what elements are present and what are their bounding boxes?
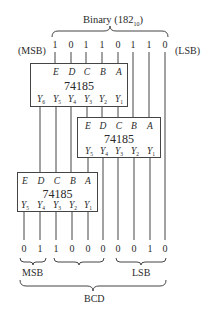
bcd-brace bbox=[20, 280, 166, 291]
chip1-input-d: D bbox=[65, 67, 79, 77]
chip1-output-y5: Y5 bbox=[50, 94, 64, 105]
bcd-bit-2: 0 bbox=[129, 244, 139, 254]
lsb-brace bbox=[116, 258, 166, 265]
top-bit-6: 0 bbox=[66, 40, 76, 50]
top-bit-5: 1 bbox=[81, 40, 91, 50]
chip3-input-d: D bbox=[34, 176, 48, 186]
top-bit-1: 1 bbox=[144, 40, 154, 50]
chip2-output-y2: Y2 bbox=[128, 146, 142, 157]
bcd-bit-8: 1 bbox=[35, 244, 45, 254]
msb-brace bbox=[20, 258, 46, 265]
chip2-input-d: D bbox=[96, 121, 110, 131]
chip-74185-1: E D C B A 74185 Y6 Y5 Y4 Y3 Y2 Y1 bbox=[30, 63, 128, 107]
top-bit-2: 1 bbox=[128, 40, 138, 50]
chip1-input-c: C bbox=[80, 67, 94, 77]
chip2-input-c: C bbox=[112, 121, 126, 131]
top-bit-3: 0 bbox=[113, 40, 123, 50]
top-bit-0: 0 bbox=[160, 40, 170, 50]
chip1-part-number: 74185 bbox=[31, 79, 127, 94]
chip3-output-y4: Y4 bbox=[34, 200, 48, 211]
binary-label-text: Binary (182 bbox=[83, 14, 133, 25]
chip1-input-a: A bbox=[112, 67, 126, 77]
bottom-lsb-label: LSB bbox=[132, 268, 150, 278]
chip1-output-y1: Y1 bbox=[112, 94, 126, 105]
mid-brace bbox=[54, 258, 104, 265]
chip2-output-y1: Y1 bbox=[144, 146, 158, 157]
chip2-input-e: E bbox=[81, 121, 95, 131]
chip3-output-y2: Y2 bbox=[66, 200, 80, 211]
chip-74185-3: E D C B A 74185 Y5 Y4 Y3 Y2 Y1 bbox=[17, 172, 98, 212]
bcd-bit-9: 0 bbox=[19, 244, 29, 254]
chip3-output-y5: Y5 bbox=[18, 200, 32, 211]
chip1-output-y3: Y3 bbox=[81, 94, 95, 105]
chip3-input-e: E bbox=[18, 176, 32, 186]
chip2-input-a: A bbox=[143, 121, 157, 131]
bcd-bit-1: 1 bbox=[145, 244, 155, 254]
chip3-input-c: C bbox=[50, 176, 64, 186]
chip3-output-y1: Y1 bbox=[81, 200, 95, 211]
chip3-output-y3: Y3 bbox=[50, 200, 64, 211]
chip2-output-y3: Y3 bbox=[112, 146, 126, 157]
chip-74185-2: E D C B A 74185 Y5 Y4 Y3 Y2 Y1 bbox=[77, 117, 161, 158]
top-msb-label: (MSB) bbox=[18, 46, 46, 56]
bcd-bit-3: 0 bbox=[113, 244, 123, 254]
chip2-input-b: B bbox=[127, 121, 141, 131]
binary-label: Binary (18210) bbox=[83, 15, 143, 29]
top-bit-7: 1 bbox=[50, 40, 60, 50]
bcd-bit-6: 0 bbox=[67, 244, 77, 254]
chip1-input-e: E bbox=[49, 67, 63, 77]
chip2-output-y4: Y4 bbox=[97, 146, 111, 157]
chip1-output-y2: Y2 bbox=[96, 94, 110, 105]
top-bit-4: 1 bbox=[97, 40, 107, 50]
chip2-part-number: 74185 bbox=[78, 132, 160, 147]
chip1-output-y4: Y4 bbox=[65, 94, 79, 105]
binary-label-close: ) bbox=[139, 14, 143, 25]
bcd-label: BCD bbox=[84, 294, 105, 304]
chip1-output-y6: Y6 bbox=[34, 94, 48, 105]
chip2-output-y5: Y5 bbox=[82, 146, 96, 157]
bcd-bit-4: 0 bbox=[98, 244, 108, 254]
bottom-msb-label: MSB bbox=[22, 268, 43, 278]
bcd-bit-5: 0 bbox=[83, 244, 93, 254]
top-lsb-label: (LSB) bbox=[175, 46, 200, 56]
bcd-bit-0: 0 bbox=[160, 244, 170, 254]
chip3-input-b: B bbox=[66, 176, 80, 186]
chip3-input-a: A bbox=[81, 176, 95, 186]
bcd-bit-7: 1 bbox=[51, 244, 61, 254]
chip1-input-b: B bbox=[96, 67, 110, 77]
